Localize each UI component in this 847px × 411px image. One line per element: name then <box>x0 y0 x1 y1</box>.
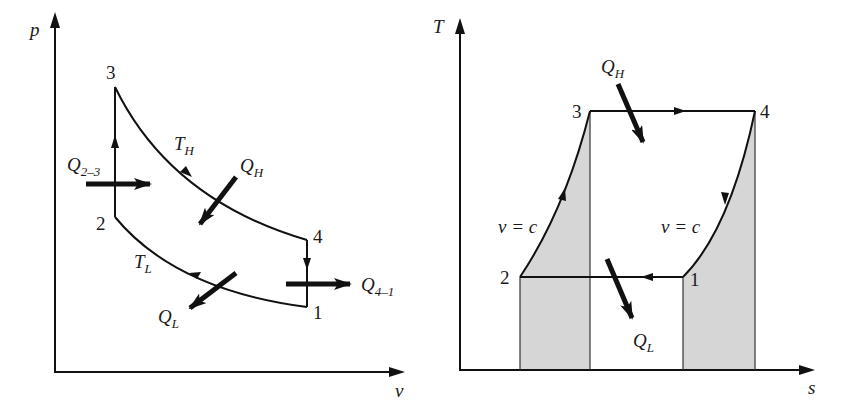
ts-point-2-label: 2 <box>500 267 510 288</box>
ts-diagram: T s 3 4 2 1 v = c v = c QH QL <box>433 16 815 398</box>
tl-label: TL <box>134 251 152 276</box>
ts-ql-heat-arrow-icon <box>607 259 632 318</box>
qh-label: QH <box>240 155 264 180</box>
q41-label: Q4–1 <box>361 274 394 299</box>
process-3-4-isotherm-TH <box>115 87 307 240</box>
ts-point-1-label: 1 <box>690 269 700 290</box>
pv-diagram: p v 3 2 4 1 TH TL Q2–3 QH Q4–1 QL <box>28 12 405 401</box>
s-axis-arrowhead-icon <box>799 365 815 375</box>
v-axis-label: v <box>395 380 404 401</box>
ts-ql-label: QL <box>633 330 654 355</box>
process-2-3-direction-icon <box>558 188 566 201</box>
ql-label: QL <box>158 306 179 331</box>
qh-heat-arrow-icon <box>200 177 236 224</box>
ts-qh-heat-arrow-icon <box>618 84 643 142</box>
point-2-label: 2 <box>96 213 106 234</box>
shaded-area-4-1 <box>683 111 755 370</box>
s-axis-label: s <box>808 377 815 398</box>
stirling-cycle-figure: p v 3 2 4 1 TH TL Q2–3 QH Q4–1 QL <box>0 0 847 411</box>
t-axis-label: T <box>433 16 445 37</box>
q23-label: Q2–3 <box>67 154 101 179</box>
v-const-label-left: v = c <box>498 216 538 237</box>
point-1-label: 1 <box>313 302 323 323</box>
p-axis-arrowhead-icon <box>50 12 60 28</box>
v-const-label-right: v = c <box>661 216 701 237</box>
point-4-label: 4 <box>313 226 323 247</box>
point-3-label: 3 <box>106 62 116 83</box>
process-4-1-direction-icon <box>303 258 311 270</box>
process-1-2-direction-icon <box>641 273 653 281</box>
p-axis-label: p <box>28 19 40 40</box>
ts-qh-label: QH <box>601 56 625 81</box>
process-2-3-direction-icon <box>111 135 119 148</box>
v-axis-arrowhead-icon <box>389 367 405 377</box>
ts-point-4-label: 4 <box>760 101 770 122</box>
th-label: TH <box>174 133 195 158</box>
ts-point-3-label: 3 <box>572 101 582 122</box>
t-axis-arrowhead-icon <box>455 18 465 34</box>
process-3-4-direction-icon <box>674 107 686 115</box>
